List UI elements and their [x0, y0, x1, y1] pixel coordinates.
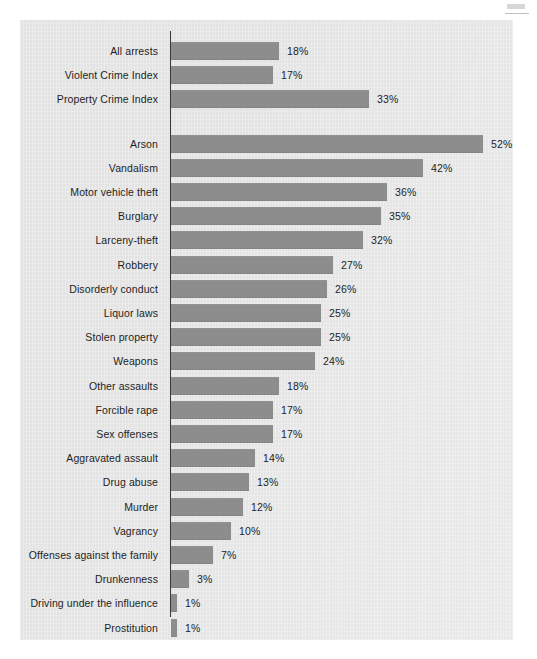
- bar-category-label: Arson: [0, 136, 158, 152]
- bar-value-label: 27%: [341, 257, 362, 273]
- bar-row: Offenses against the family7%: [20, 546, 513, 564]
- bar-category-label: Forcible rape: [0, 402, 158, 418]
- bar-track: [170, 570, 188, 588]
- bar-category-label: Offenses against the family: [0, 547, 158, 563]
- bar: [171, 546, 213, 564]
- bar-row: Disorderly conduct26%: [20, 280, 513, 298]
- bar-value-label: 36%: [395, 184, 416, 200]
- bar-row: Property Crime Index33%: [20, 90, 513, 108]
- bar-category-label: Burglary: [0, 208, 158, 224]
- bar-track: [170, 256, 332, 274]
- bar-category-label: Murder: [0, 499, 158, 515]
- bar: [171, 377, 279, 395]
- bar: [171, 498, 243, 516]
- bar-row: All arrests18%: [20, 42, 513, 60]
- bar: [171, 231, 363, 249]
- bar-track: [170, 401, 272, 419]
- bar-track: [170, 66, 272, 84]
- bar-value-label: 17%: [281, 67, 302, 83]
- bar: [171, 449, 255, 467]
- bar: [171, 135, 483, 153]
- bar-track: [170, 425, 272, 443]
- bar-row: Motor vehicle theft36%: [20, 183, 513, 201]
- bar-value-label: 12%: [251, 499, 272, 515]
- bar: [171, 401, 273, 419]
- bar: [171, 570, 189, 588]
- bar-category-label: Larceny-theft: [0, 232, 158, 248]
- bar-track: [170, 449, 254, 467]
- bar-row: Sex offenses17%: [20, 425, 513, 443]
- bar-value-label: 52%: [491, 136, 512, 152]
- bar-row: Burglary35%: [20, 207, 513, 225]
- bar-track: [170, 159, 422, 177]
- bar-value-label: 42%: [431, 160, 452, 176]
- bar: [171, 90, 369, 108]
- bar-category-label: Drunkenness: [0, 571, 158, 587]
- bar-track: [170, 594, 176, 612]
- bar: [171, 352, 315, 370]
- bar-category-label: Vagrancy: [0, 523, 158, 539]
- bar-category-label: Motor vehicle theft: [0, 184, 158, 200]
- bar-row: Other assaults18%: [20, 377, 513, 395]
- bar-category-label: All arrests: [0, 43, 158, 59]
- bar-row: Vagrancy10%: [20, 522, 513, 540]
- bar-track: [170, 42, 278, 60]
- bar-track: [170, 183, 386, 201]
- bar-value-label: 17%: [281, 426, 302, 442]
- bar-category-label: Vandalism: [0, 160, 158, 176]
- bar-value-label: 26%: [335, 281, 356, 297]
- bar-category-label: Stolen property: [0, 329, 158, 345]
- bar-value-label: 10%: [239, 523, 260, 539]
- bar-value-label: 32%: [371, 232, 392, 248]
- bar-category-label: Other assaults: [0, 378, 158, 394]
- bar: [171, 619, 177, 637]
- bar-track: [170, 304, 320, 322]
- bar-row: Prostitution1%: [20, 619, 513, 637]
- bar-row: Violent Crime Index17%: [20, 66, 513, 84]
- bar-row: Vandalism42%: [20, 159, 513, 177]
- bar-value-label: 1%: [185, 620, 200, 636]
- bar-row: Robbery27%: [20, 256, 513, 274]
- bar-track: [170, 207, 380, 225]
- bar-value-label: 7%: [221, 547, 236, 563]
- bar-row: Aggravated assault14%: [20, 449, 513, 467]
- bar-row: Drunkenness3%: [20, 570, 513, 588]
- bar-chart-panel: All arrests18%Violent Crime Index17%Prop…: [20, 20, 513, 640]
- bar-value-label: 25%: [329, 329, 350, 345]
- bar: [171, 256, 333, 274]
- bar-category-label: Aggravated assault: [0, 450, 158, 466]
- bar: [171, 280, 327, 298]
- artifact-blob: [507, 4, 525, 9]
- bar-value-label: 25%: [329, 305, 350, 321]
- bar-value-label: 24%: [323, 353, 344, 369]
- bar-category-label: Weapons: [0, 353, 158, 369]
- bar: [171, 183, 387, 201]
- bar-track: [170, 619, 176, 637]
- bar-category-label: Sex offenses: [0, 426, 158, 442]
- bar-category-label: Prostitution: [0, 620, 158, 636]
- bar-value-label: 14%: [263, 450, 284, 466]
- bar: [171, 594, 177, 612]
- bar-row: Liquor laws25%: [20, 304, 513, 322]
- bar-track: [170, 352, 314, 370]
- bar-row: Drug abuse13%: [20, 473, 513, 491]
- bar: [171, 159, 423, 177]
- bar-row: Arson52%: [20, 135, 513, 153]
- bar: [171, 425, 273, 443]
- bar-row: Forcible rape17%: [20, 401, 513, 419]
- artifact-line: [505, 13, 529, 14]
- bar-track: [170, 231, 362, 249]
- bar-value-label: 1%: [185, 595, 200, 611]
- bar-value-label: 17%: [281, 402, 302, 418]
- bar-category-label: Drug abuse: [0, 474, 158, 490]
- bar-category-label: Property Crime Index: [0, 91, 158, 107]
- bar-track: [170, 280, 326, 298]
- bar-category-label: Driving under the influence: [0, 595, 158, 611]
- bar-value-label: 13%: [257, 474, 278, 490]
- bar-value-label: 35%: [389, 208, 410, 224]
- bar-category-label: Liquor laws: [0, 305, 158, 321]
- plot-area: All arrests18%Violent Crime Index17%Prop…: [20, 20, 513, 640]
- bar: [171, 66, 273, 84]
- bar: [171, 42, 279, 60]
- bar-row: Murder12%: [20, 498, 513, 516]
